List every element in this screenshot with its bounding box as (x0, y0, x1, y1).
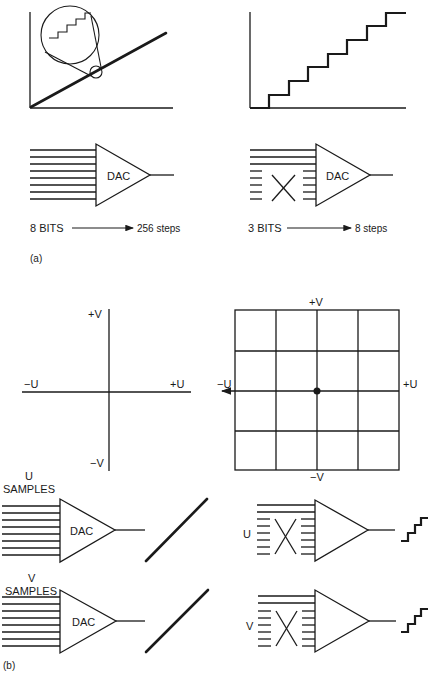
disconnected-input-stubs-right (303, 171, 316, 199)
magnified-fine-staircase (49, 13, 91, 38)
graph-8bit-ramp (30, 6, 173, 108)
dac-3bit: DAC (250, 144, 393, 206)
disconnected-cross-icon (272, 175, 295, 201)
dac-resolution-figure: DAC DAC 8 BI (0, 0, 434, 683)
minus-u-label: −U (217, 378, 231, 390)
input-lines-8 (30, 150, 96, 199)
dac-label: DAC (70, 525, 93, 537)
disconnected-input-stubs-left (258, 611, 271, 646)
samples-label-line1: U (25, 470, 33, 482)
plus-v-label: +V (309, 296, 323, 308)
uv-axes-grid: +V −V −U +U (217, 296, 417, 483)
origin-dot (314, 388, 321, 395)
minus-v-label: −V (310, 471, 324, 483)
dac-triangle (315, 500, 368, 561)
bits-label: 8 BITS (30, 222, 64, 234)
steps-label: 256 steps (137, 223, 180, 234)
ramp-line (31, 33, 166, 107)
plus-u-label: +U (170, 378, 184, 390)
samples-label-line2: SAMPLES (5, 585, 57, 597)
plus-u-label: +U (403, 378, 417, 390)
connected-input-lines (257, 505, 315, 512)
smooth-ramp-output (146, 499, 207, 561)
connected-input-lines (250, 150, 316, 164)
magnify-large-circle (41, 6, 99, 64)
dac-u-full: U SAMPLES DAC (2, 470, 207, 562)
steps-label: 8 steps (355, 223, 387, 234)
dac-v-reduced: V (246, 590, 428, 652)
dac-triangle (315, 590, 369, 652)
staircase-8-steps (250, 13, 406, 108)
panel-label-a: (a) (30, 253, 42, 264)
minus-u-label: −U (24, 378, 38, 390)
disconnected-input-stubs-left (257, 519, 270, 554)
dac-8bit: DAC (30, 144, 174, 206)
caption-8bit: 8 BITS 256 steps (30, 222, 180, 234)
bits-label: 3 BITS (248, 222, 282, 234)
samples-label-line2: SAMPLES (3, 483, 55, 495)
graph-3bit-staircase (250, 12, 406, 108)
magnify-tangent-lower (45, 52, 91, 76)
panel-label-b: (b) (3, 660, 15, 671)
input-lines-8 (2, 597, 60, 646)
disconnected-input-stubs-left (250, 171, 262, 199)
minus-v-label: −V (90, 457, 104, 469)
caption-3bit: 3 BITS 8 steps (248, 222, 387, 234)
dac-label: DAC (326, 170, 349, 182)
channel-label: U (243, 528, 251, 540)
dac-u-reduced: U (243, 500, 428, 561)
disconnected-cross-icon (275, 519, 296, 554)
channel-label: V (246, 620, 254, 632)
connected-input-lines (258, 596, 315, 603)
dac-label: DAC (107, 170, 130, 182)
magnify-tangent-upper (91, 16, 101, 67)
disconnected-input-stubs-right (301, 519, 315, 554)
dac-label: DAC (72, 616, 95, 628)
disconnected-input-stubs-right (302, 611, 315, 646)
plus-v-label: +V (88, 308, 102, 320)
smooth-ramp-output (146, 590, 208, 652)
staircase-output (401, 518, 428, 541)
uv-axes-plain: +V −V −U +U (22, 308, 191, 471)
disconnected-cross-icon (276, 611, 297, 646)
samples-label-line1: V (28, 572, 36, 584)
input-lines-8 (2, 506, 60, 555)
staircase-output (401, 609, 428, 632)
dac-v-full: V SAMPLES DAC (2, 572, 208, 653)
